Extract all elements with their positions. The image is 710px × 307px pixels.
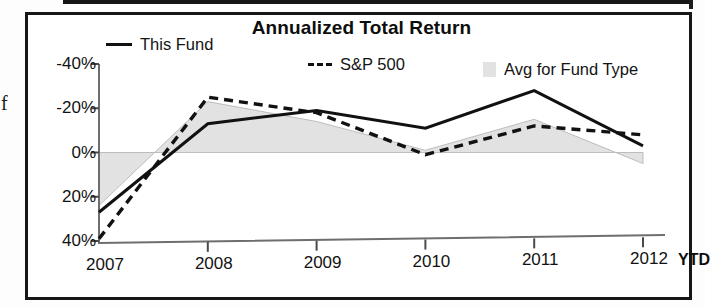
x-axis-labels: 200720082009201020112012YTD: [28, 15, 695, 303]
plot-area: 40%20%0%-20%-40% 20072008200920102011201…: [28, 15, 695, 303]
page-top-rule: [63, 0, 693, 4]
x-axis-tick-label: 2009: [304, 253, 342, 273]
x-axis-tick-label: 2010: [412, 252, 450, 272]
x-axis-tick-label: 2011: [522, 250, 559, 270]
page-top-rule-cap: [689, 0, 693, 9]
x-axis-tick-label: 2007: [86, 255, 124, 275]
x-axis-tick-label: 2012: [630, 249, 668, 269]
stray-scan-glyph: f: [1, 93, 8, 113]
x-axis-ytd-label: YTD: [678, 251, 710, 269]
chart-panel: Annualized Total Return This Fund S&P 50…: [25, 12, 692, 300]
x-axis-tick-label: 2008: [195, 254, 233, 274]
